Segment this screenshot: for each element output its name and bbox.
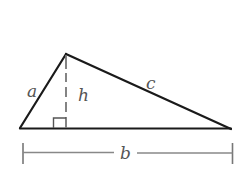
triangle-diagram: a h c b: [0, 0, 249, 176]
right-angle-marker: [54, 118, 67, 128]
label-height: h: [78, 85, 89, 105]
label-base: b: [120, 143, 131, 163]
label-side-c: c: [146, 73, 156, 93]
label-side-a: a: [27, 81, 37, 101]
